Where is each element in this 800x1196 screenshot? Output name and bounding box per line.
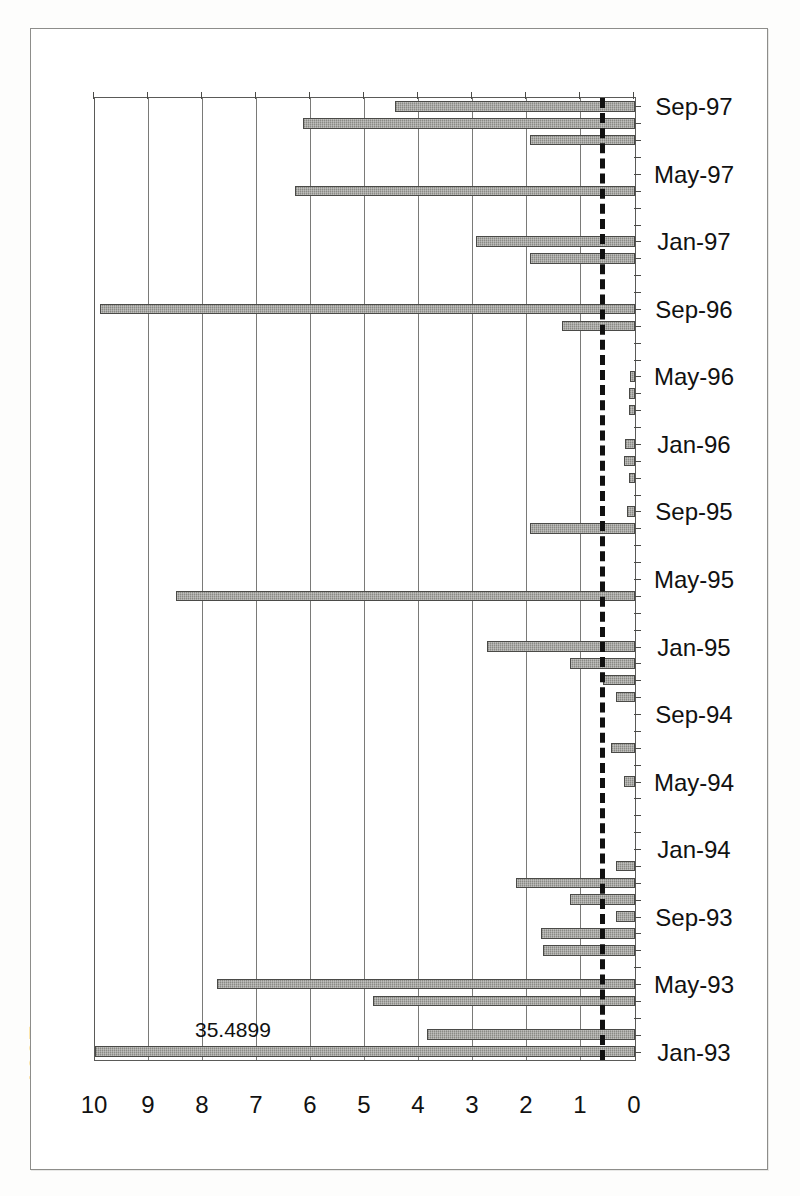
category-tick-label: May-97 xyxy=(654,161,734,189)
category-tick-label: May-96 xyxy=(654,363,734,391)
category-tick-label: Jan-94 xyxy=(657,836,730,864)
bar xyxy=(295,186,635,196)
value-tick-label: 5 xyxy=(336,1091,392,1119)
category-tick-mark xyxy=(634,984,641,985)
category-tick-mark xyxy=(634,360,641,361)
category-tick-mark xyxy=(634,866,641,867)
category-tick-mark xyxy=(634,444,641,445)
gridline xyxy=(202,98,203,1060)
value-tick-label: 0 xyxy=(606,1091,662,1119)
category-tick-label: May-93 xyxy=(654,971,734,999)
category-tick-mark xyxy=(634,157,641,158)
category-tick-mark xyxy=(634,191,641,192)
category-tick-mark xyxy=(634,258,641,259)
plot-wrapper: 35.4899 012345678910 Jan-93May-93Sep-93J… xyxy=(80,73,720,1123)
gridline xyxy=(148,98,149,1060)
bar xyxy=(616,861,635,871)
gridline xyxy=(418,98,419,1060)
gridline xyxy=(364,98,365,1060)
bar xyxy=(616,692,635,702)
category-tick-mark xyxy=(634,680,641,681)
category-tick-mark xyxy=(634,1018,641,1019)
category-tick-mark xyxy=(634,275,641,276)
category-tick-mark xyxy=(634,748,641,749)
category-tick-mark xyxy=(634,579,641,580)
category-tick-mark xyxy=(634,292,641,293)
category-tick-mark xyxy=(634,697,641,698)
bar xyxy=(516,878,635,888)
bar xyxy=(616,911,635,921)
value-tick-label: 8 xyxy=(174,1091,230,1119)
bar xyxy=(541,928,636,938)
value-tick-label: 7 xyxy=(228,1091,284,1119)
bar xyxy=(100,304,635,314)
data-label-overflow: 35.4899 xyxy=(195,1018,271,1042)
category-tick-mark xyxy=(634,647,641,648)
category-tick-mark xyxy=(634,933,641,934)
category-tick-label: Sep-97 xyxy=(655,93,732,121)
gridline xyxy=(256,98,257,1060)
bar xyxy=(611,743,635,753)
category-tick-mark xyxy=(634,562,641,563)
bar xyxy=(303,118,635,128)
caption-clip: 1997: xyxy=(0,950,30,1100)
category-tick-mark xyxy=(634,630,641,631)
category-tick-mark xyxy=(634,950,641,951)
category-tick-mark xyxy=(634,495,641,496)
category-tick-mark xyxy=(634,782,641,783)
category-tick-mark xyxy=(634,815,641,816)
category-tick-label: Sep-93 xyxy=(655,904,732,932)
category-tick-mark xyxy=(634,849,641,850)
category-tick-mark xyxy=(634,208,641,209)
category-tick-mark xyxy=(634,798,641,799)
category-tick-mark xyxy=(634,714,641,715)
category-tick-mark xyxy=(634,225,641,226)
value-tick-label: 9 xyxy=(120,1091,176,1119)
category-tick-mark xyxy=(634,309,641,310)
category-tick-mark xyxy=(634,883,641,884)
value-tick-label: 2 xyxy=(498,1091,554,1119)
category-tick-mark xyxy=(634,410,641,411)
bar-chart: 35.4899 012345678910 Jan-93May-93Sep-93J… xyxy=(80,73,720,1123)
category-tick-mark xyxy=(634,393,641,394)
category-tick-mark xyxy=(634,106,641,107)
category-tick-label: Sep-94 xyxy=(655,701,732,729)
category-tick-mark xyxy=(634,140,641,141)
category-tick-label: Sep-96 xyxy=(655,296,732,324)
plot-area: 35.4899 xyxy=(94,97,636,1061)
category-tick-mark xyxy=(634,427,641,428)
figure-page: 1997: 35.4899 012345678910 Jan-93May-93S… xyxy=(0,0,800,1196)
category-tick-mark xyxy=(634,663,641,664)
category-tick-mark xyxy=(634,1052,641,1053)
bar xyxy=(562,321,635,331)
category-tick-mark xyxy=(634,326,641,327)
threshold-line xyxy=(600,98,605,1060)
bar xyxy=(530,135,635,145)
category-tick-label: Jan-96 xyxy=(657,431,730,459)
category-tick-mark xyxy=(634,596,641,597)
category-tick-label: May-94 xyxy=(654,769,734,797)
category-tick-mark xyxy=(634,900,641,901)
bar xyxy=(603,675,635,685)
category-tick-mark xyxy=(634,512,641,513)
bar xyxy=(217,979,636,989)
category-tick-mark xyxy=(634,1035,641,1036)
bar xyxy=(543,945,635,955)
category-tick-mark xyxy=(634,343,641,344)
category-tick-label: Jan-95 xyxy=(657,634,730,662)
category-tick-label: Jan-93 xyxy=(657,1039,730,1067)
value-tick-label: 3 xyxy=(444,1091,500,1119)
category-tick-mark xyxy=(634,123,641,124)
category-tick-label: Jan-97 xyxy=(657,228,730,256)
category-tick-mark xyxy=(634,731,641,732)
caption-text: 1997: xyxy=(25,950,31,1086)
value-tick-label: 1 xyxy=(552,1091,608,1119)
bar xyxy=(530,523,635,533)
category-tick-mark xyxy=(634,1001,641,1002)
bar xyxy=(95,1046,635,1056)
value-tick-label: 4 xyxy=(390,1091,446,1119)
category-tick-mark xyxy=(634,174,641,175)
category-tick-mark xyxy=(634,765,641,766)
bar xyxy=(487,641,636,651)
category-axis: Jan-93May-93Sep-93Jan-94May-94Sep-94Jan-… xyxy=(634,99,694,1061)
